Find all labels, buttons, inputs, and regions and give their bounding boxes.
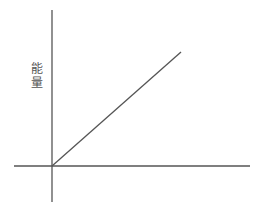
diagram-svg [0, 0, 260, 215]
y-axis-label: 能量 [27, 62, 43, 90]
data-line [52, 52, 181, 166]
diagram-canvas: 能量 [0, 0, 260, 215]
